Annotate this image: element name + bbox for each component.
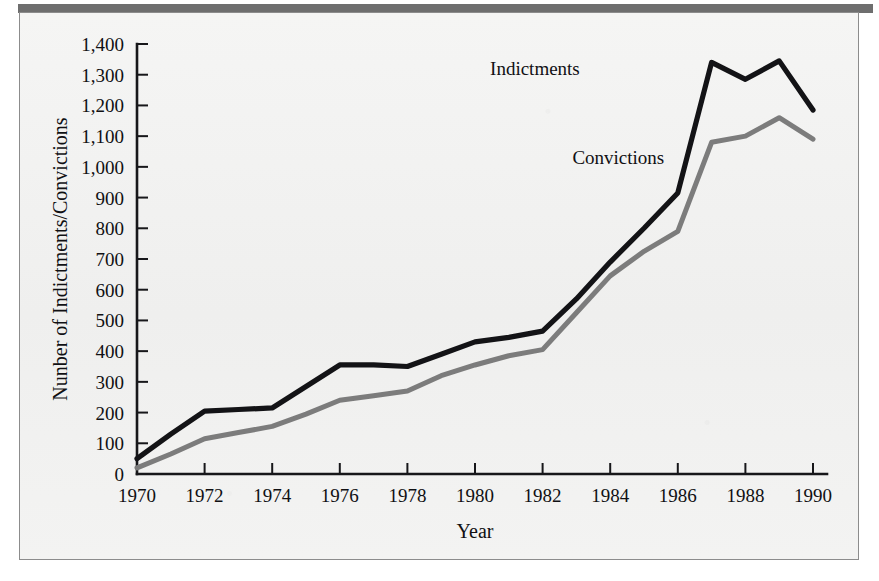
y-tick-label: 1,400 (81, 34, 124, 55)
x-tick-label: 1984 (591, 485, 630, 506)
series-line-indictments (137, 61, 813, 459)
y-tick-label: 1,300 (81, 65, 124, 86)
series-label-indictments: Indictments (490, 58, 580, 79)
figure-frame: 01002003004005006007008009001,0001,1001,… (19, 12, 859, 560)
x-tick-label: 1980 (456, 485, 494, 506)
x-tick-label: 1974 (253, 485, 292, 506)
chart-canvas: 01002003004005006007008009001,0001,1001,… (20, 13, 857, 558)
x-tick-label: 1986 (659, 485, 697, 506)
x-tick-label: 1990 (794, 485, 832, 506)
y-tick-label: 900 (96, 188, 125, 209)
figure-page: 01002003004005006007008009001,0001,1001,… (0, 0, 879, 581)
y-tick-label: 600 (96, 280, 125, 301)
y-tick-label: 700 (96, 249, 125, 270)
series-label-convictions: Convictions (572, 147, 664, 168)
y-tick-label: 300 (96, 372, 125, 393)
x-tick-label: 1978 (388, 485, 426, 506)
y-tick-label: 1,000 (81, 157, 124, 178)
x-tick-label: 1982 (524, 485, 562, 506)
y-tick-label: 400 (96, 341, 125, 362)
y-tick-label: 1,200 (81, 95, 124, 116)
y-tick-label: 800 (96, 218, 125, 239)
y-tick-label: 100 (96, 433, 125, 454)
x-tick-label: 1988 (726, 485, 764, 506)
y-tick-label: 0 (115, 464, 125, 485)
y-tick-label: 1,100 (81, 126, 124, 147)
series-line-convictions (137, 118, 813, 468)
y-tick-label: 500 (96, 310, 125, 331)
y-axis-title: Nunber of Indictments/Convictions (49, 117, 71, 401)
line-chart: 01002003004005006007008009001,0001,1001,… (20, 13, 858, 559)
x-tick-label: 1976 (321, 485, 359, 506)
x-axis-ticks: 1970197219741976197819801982198419861988… (118, 463, 832, 506)
x-tick-label: 1970 (118, 485, 156, 506)
x-axis-title: Year (457, 520, 494, 542)
x-tick-label: 1972 (186, 485, 224, 506)
y-tick-label: 200 (96, 403, 125, 424)
series-inline-labels: IndictmentsConvictions (490, 58, 664, 168)
data-series-group (137, 61, 813, 468)
